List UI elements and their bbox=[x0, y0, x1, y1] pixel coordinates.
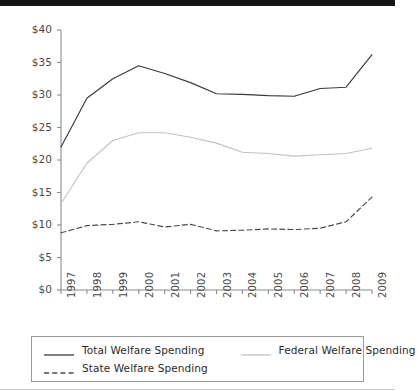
y-axis-tick-label: $5 bbox=[8, 251, 52, 263]
y-axis-tick-label: $20 bbox=[8, 153, 52, 165]
legend-item-federal: Federal Welfare Spending bbox=[241, 344, 416, 356]
x-axis-tick-label: 2008 bbox=[351, 272, 362, 298]
bottom-divider bbox=[0, 389, 395, 390]
legend-swatch-total-solid-line bbox=[44, 345, 74, 355]
legend-row-1: Total Welfare Spending Federal Welfare S… bbox=[44, 344, 420, 356]
chart-legend: Total Welfare Spending Federal Welfare S… bbox=[31, 336, 364, 382]
axes-layer bbox=[57, 30, 372, 294]
x-axis-tick-label: 2004 bbox=[247, 272, 258, 298]
legend-row-2: State Welfare Spending bbox=[44, 362, 222, 374]
y-axis-tick-label: $10 bbox=[8, 218, 52, 230]
series-layer bbox=[61, 55, 372, 233]
series-line-total-welfare-spending bbox=[61, 55, 372, 147]
x-axis-tick-label: 1999 bbox=[118, 272, 129, 298]
chart-figure: $0$5$10$15$20$25$30$35$40 19971998199920… bbox=[0, 6, 395, 391]
series-line-federal-welfare-spending bbox=[61, 133, 372, 204]
x-axis-tick-label: 2007 bbox=[325, 272, 336, 298]
x-axis-tick-label: 2002 bbox=[196, 272, 207, 298]
legend-swatch-federal-solid-line bbox=[241, 345, 271, 355]
legend-swatch-state-dashed-line bbox=[44, 363, 74, 373]
line-chart-svg bbox=[0, 6, 395, 306]
x-axis-tick-label: 2006 bbox=[299, 272, 310, 298]
y-axis-tick-label: $35 bbox=[8, 56, 52, 68]
y-axis-tick-label: $30 bbox=[8, 88, 52, 100]
x-axis-tick-label: 2005 bbox=[273, 272, 284, 298]
x-axis-tick-label: 2003 bbox=[222, 272, 233, 298]
legend-label-federal: Federal Welfare Spending bbox=[279, 344, 416, 356]
y-axis-tick-label: $15 bbox=[8, 186, 52, 198]
legend-label-total: Total Welfare Spending bbox=[82, 344, 205, 356]
y-axis-tick-label: $0 bbox=[8, 283, 52, 295]
x-axis-tick-label: 2001 bbox=[170, 272, 181, 298]
plot-area: $0$5$10$15$20$25$30$35$40 19971998199920… bbox=[0, 6, 395, 306]
x-axis-tick-label: 1998 bbox=[92, 272, 103, 298]
y-axis-tick-label: $25 bbox=[8, 121, 52, 133]
x-axis-tick-label: 2000 bbox=[144, 272, 155, 298]
y-axis-tick-label: $40 bbox=[8, 23, 52, 35]
x-axis-tick-label: 2009 bbox=[377, 272, 388, 298]
legend-label-state: State Welfare Spending bbox=[82, 362, 208, 374]
series-line-state-welfare-spending bbox=[61, 197, 372, 233]
legend-item-state: State Welfare Spending bbox=[44, 362, 208, 374]
legend-item-total: Total Welfare Spending bbox=[44, 344, 205, 356]
x-axis-tick-label: 1997 bbox=[66, 272, 77, 298]
